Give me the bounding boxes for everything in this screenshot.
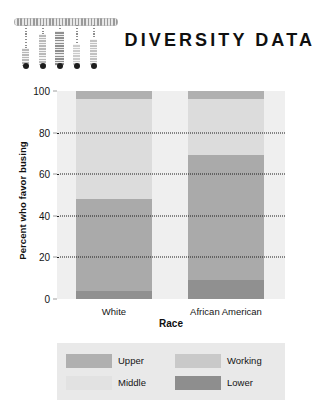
category-label-white: White	[76, 306, 152, 317]
gridline-40	[57, 215, 285, 216]
y-axis-label: Percent who favor busing	[17, 116, 28, 286]
y-tick-label: 20	[39, 252, 50, 263]
legend-item-lower: Lower	[175, 374, 276, 391]
bar-segment-upper	[76, 91, 152, 99]
legend-label-working: Working	[227, 355, 262, 366]
y-tick-label: 40	[39, 210, 50, 221]
chart: Percent who favor busing 100 80 60 40 20…	[0, 78, 327, 333]
abacus-bead-3	[57, 63, 63, 69]
gridline-80	[57, 132, 285, 133]
legend-item-upper: Upper	[66, 352, 167, 369]
y-tick-label: 60	[39, 169, 50, 180]
abacus-bar-3	[55, 31, 64, 66]
bar-segment-working	[76, 199, 152, 291]
y-tick-label: 100	[33, 86, 50, 97]
chart-legend: Upper Working Middle Lower	[57, 343, 285, 400]
abacus-bar-2	[39, 34, 46, 66]
legend-label-middle: Middle	[118, 377, 146, 388]
bar-african-american: African American	[188, 91, 264, 299]
abacus-logo	[14, 18, 118, 70]
y-tick-mark	[53, 299, 57, 300]
abacus-rail-icon	[14, 18, 118, 26]
bar-segment-lower	[188, 280, 264, 299]
legend-label-lower: Lower	[227, 377, 253, 388]
y-tick-mark	[53, 91, 57, 92]
legend-swatch-middle	[66, 376, 112, 390]
abacus-bead-1	[23, 63, 29, 69]
plot-area: 100 80 60 40 20 0 White	[57, 91, 285, 299]
bar-segment-middle	[76, 99, 152, 199]
gridline-20	[57, 257, 285, 258]
abacus-bead-4	[74, 63, 80, 69]
category-label-african-american: African American	[188, 306, 264, 317]
y-tick-label: 80	[39, 127, 50, 138]
abacus-bead-2	[40, 63, 46, 69]
legend-item-middle: Middle	[66, 374, 167, 391]
legend-label-upper: Upper	[118, 355, 144, 366]
x-axis-label: Race	[57, 318, 285, 329]
abacus-bead-5	[91, 63, 97, 69]
page-header: DIVERSITY DATA	[0, 0, 327, 78]
bar-segment-lower	[76, 291, 152, 299]
legend-item-working: Working	[175, 352, 276, 369]
bar-segment-middle	[188, 99, 264, 155]
legend-swatch-upper	[66, 354, 112, 368]
abacus-bar-5	[90, 39, 97, 66]
legend-swatch-lower	[175, 376, 221, 390]
page-title: DIVERSITY DATA	[125, 30, 315, 51]
y-tick-label: 0	[44, 294, 50, 305]
bar-segment-upper	[188, 91, 264, 99]
gridline-60	[57, 174, 285, 175]
legend-swatch-working	[175, 354, 221, 368]
bar-white: White	[76, 91, 152, 299]
